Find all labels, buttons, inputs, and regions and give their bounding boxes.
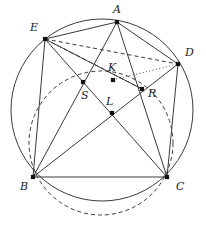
point-label-E: E bbox=[30, 22, 38, 33]
point-label-D: D bbox=[185, 47, 194, 58]
segment-B-D bbox=[33, 64, 178, 177]
vertex-dot-A bbox=[115, 20, 119, 24]
point-label-A: A bbox=[113, 4, 121, 15]
geometry-figure: AEDBCKRSL bbox=[0, 0, 206, 247]
point-label-S: S bbox=[81, 90, 89, 101]
segment-E-A bbox=[45, 22, 117, 39]
segment-A-C bbox=[117, 22, 167, 177]
segment-A-D bbox=[117, 22, 178, 64]
vertex-dot-L bbox=[110, 111, 114, 115]
vertex-dot-S bbox=[81, 80, 85, 84]
point-label-L: L bbox=[106, 96, 113, 107]
figure-canvas bbox=[0, 0, 206, 247]
vertex-dot-R bbox=[140, 87, 144, 91]
segment-A-B bbox=[33, 22, 117, 177]
segment-D-C bbox=[167, 64, 178, 177]
point-label-R: R bbox=[148, 88, 156, 99]
vertex-dot-B bbox=[31, 175, 35, 179]
segment-E-B bbox=[33, 39, 45, 177]
point-label-C: C bbox=[176, 181, 184, 192]
vertex-dot-K bbox=[111, 78, 115, 82]
segment-E-C bbox=[45, 39, 167, 177]
vertex-dot-D bbox=[176, 62, 180, 66]
point-label-K: K bbox=[108, 62, 116, 73]
vertex-dot-E bbox=[43, 37, 47, 41]
vertex-dot-C bbox=[165, 175, 169, 179]
point-label-B: B bbox=[20, 181, 28, 192]
